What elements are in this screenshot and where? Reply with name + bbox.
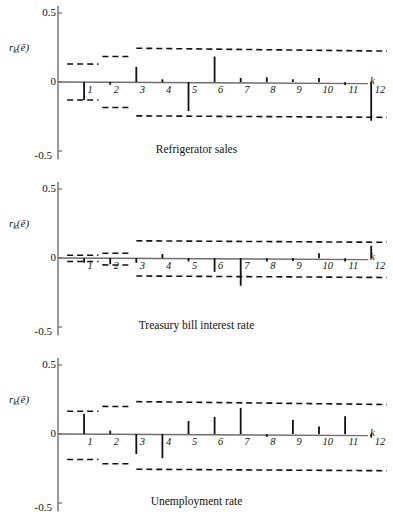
k-tick-label: 12 — [375, 436, 386, 447]
k-tick-label: 11 — [349, 436, 359, 447]
k-tick-label: 7 — [244, 84, 250, 95]
k-tick-label: 11 — [349, 260, 359, 271]
acf-panel-refrigerator-sales: rk(ê) 0.5 0 -0.5 k 123456789101112 Refri… — [0, 0, 393, 176]
k-tick-label: 7 — [244, 260, 250, 271]
lower-confidence-band-segment — [136, 469, 387, 471]
k-tick-label: 5 — [192, 260, 197, 271]
k-tick-label: 7 — [244, 436, 250, 447]
k-tick-label: 12 — [375, 260, 386, 271]
k-tick-label: 6 — [218, 260, 224, 271]
panel-caption-0: Refrigerator sales — [0, 143, 393, 155]
panel-caption-1: Treasury bill interest rate — [0, 319, 393, 331]
k-tick-label: 4 — [166, 84, 172, 95]
k-tick-label: 3 — [139, 436, 145, 447]
k-tick-label: 9 — [296, 260, 302, 271]
k-tick-label: 8 — [270, 260, 276, 271]
acf-panel-unemployment-rate: rk(ê) 0.5 0 -0.5 k 123456789101112 Unemp… — [0, 352, 393, 527]
upper-confidence-band-segment — [136, 48, 387, 51]
lower-confidence-band-segment — [136, 116, 387, 118]
k-tick-label: 1 — [88, 84, 93, 95]
k-tick-label: 2 — [114, 84, 120, 95]
k-tick-label: 11 — [349, 84, 359, 95]
k-tick-label: 5 — [192, 84, 197, 95]
k-tick-label: 1 — [88, 260, 93, 271]
k-tick-label: 10 — [323, 436, 334, 447]
x-axis — [58, 82, 368, 84]
k-tick-label: 12 — [375, 84, 386, 95]
k-tick-label: 2 — [114, 436, 120, 447]
k-tick-label: 10 — [323, 84, 334, 95]
k-tick-label: 3 — [139, 260, 145, 271]
lower-confidence-band-segment — [136, 276, 387, 278]
k-tick-label: 6 — [218, 84, 224, 95]
k-tick-label: 4 — [166, 436, 172, 447]
k-tick-label: 2 — [114, 260, 120, 271]
k-tick-label: 9 — [296, 436, 302, 447]
x-axis — [58, 258, 368, 260]
k-tick-label: 9 — [296, 84, 302, 95]
k-tick-label: 8 — [270, 84, 276, 95]
k-tick-label: 10 — [323, 260, 334, 271]
upper-confidence-band-segment — [136, 241, 387, 243]
k-tick-label: 3 — [139, 84, 145, 95]
k-tick-label: 4 — [166, 260, 172, 271]
upper-confidence-band-segment — [136, 402, 387, 405]
acf-panel-treasury-bill-interest-rate: rk(ê) 0.5 0 -0.5 k 123456789101112 Treas… — [0, 176, 393, 352]
k-tick-label: 8 — [270, 436, 276, 447]
k-tick-label: 6 — [218, 436, 224, 447]
panel-caption-2: Unemployment rate — [0, 495, 393, 507]
k-tick-label: 5 — [192, 436, 197, 447]
k-tick-label: 1 — [88, 436, 93, 447]
x-axis — [58, 434, 368, 436]
